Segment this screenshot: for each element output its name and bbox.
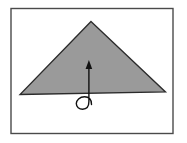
figure-container: Fold-up step diagram Gray triangle with … [0,0,187,143]
figure-canvas [0,0,187,143]
